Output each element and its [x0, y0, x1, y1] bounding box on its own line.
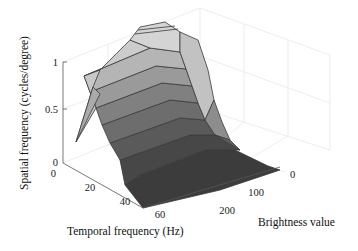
y-tick-200: 200	[219, 205, 235, 216]
x-tick-20: 20	[85, 182, 96, 193]
z-tick-0: 0	[53, 157, 58, 168]
z-tick-05: 0.5	[45, 104, 58, 115]
z-ticks: 1 0.5 0	[45, 57, 58, 168]
y-axis-label: Brightness value	[258, 216, 335, 229]
z-tick-1: 1	[53, 57, 58, 68]
x-tick-40: 40	[120, 196, 131, 207]
x-axis-label: Temporal frequency (Hz)	[67, 225, 184, 238]
y-tick-100: 100	[248, 187, 264, 198]
surface	[76, 22, 280, 208]
x-tick-0: 0	[51, 168, 56, 179]
y-tick-0: 0	[290, 169, 295, 180]
x-tick-60: 60	[155, 209, 166, 220]
surface-chart: 1 0.5 0 0 20 40 60 0 100 200 Spatial fre…	[0, 0, 358, 251]
z-axis-label: Spatial frequency (cycles/degree)	[18, 36, 31, 190]
